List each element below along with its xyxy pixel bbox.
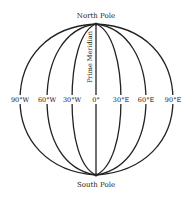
- prime-meridian-label: Prime Meridian: [86, 31, 94, 83]
- meridian-globe-diagram: North Pole South Pole Prime Meridian 90°…: [0, 0, 190, 197]
- meridian-90e: [96, 24, 173, 175]
- meridian-label-0: 0°: [92, 96, 99, 104]
- north-pole-label: North Pole: [77, 12, 115, 20]
- meridian-label-30e: 30°E: [113, 96, 130, 104]
- meridian-label-60w: 60°W: [38, 96, 57, 104]
- meridian-label-60e: 60°E: [138, 96, 155, 104]
- meridian-label-90e: 90°E: [165, 96, 182, 104]
- south-pole-label: South Pole: [77, 181, 115, 189]
- south-pole-point: [95, 174, 98, 177]
- meridian-label-90w: 90°W: [11, 96, 30, 104]
- meridian-label-30w: 30°W: [63, 96, 82, 104]
- north-pole-point: [95, 23, 98, 26]
